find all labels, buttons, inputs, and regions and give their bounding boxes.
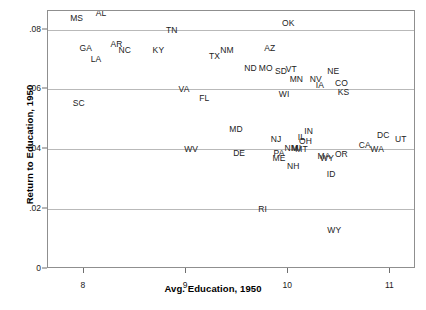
data-point-MS: MS bbox=[70, 14, 83, 23]
data-point-WY: WY bbox=[327, 225, 341, 234]
data-point-OK: OK bbox=[282, 19, 294, 28]
data-point-OR: OR bbox=[335, 150, 348, 159]
data-point-KS: KS bbox=[338, 87, 350, 96]
data-point-VA: VA bbox=[178, 85, 189, 94]
data-point-AL: AL bbox=[96, 10, 107, 18]
data-point-NH: NH bbox=[287, 161, 299, 170]
gridline-y-.06 bbox=[48, 89, 414, 90]
gridline-y-.08 bbox=[48, 30, 414, 31]
data-point-MN: MN bbox=[290, 75, 303, 84]
data-point-NJ: NJ bbox=[271, 135, 282, 144]
data-point-TX: TX bbox=[209, 52, 220, 61]
x-tick-mark-8 bbox=[83, 268, 84, 273]
data-point-WV: WV bbox=[184, 145, 198, 154]
data-point-MO: MO bbox=[259, 63, 273, 72]
x-tick-mark-9 bbox=[185, 268, 186, 273]
data-point-CA: CA bbox=[359, 141, 371, 150]
gridline-y-.02 bbox=[48, 209, 414, 210]
data-point-WY: WY bbox=[320, 153, 334, 162]
data-point-ID: ID bbox=[327, 170, 336, 179]
data-point-IN: IN bbox=[304, 126, 313, 135]
data-point-WI: WI bbox=[279, 89, 290, 98]
data-point-KY: KY bbox=[153, 46, 165, 55]
data-point-IA: IA bbox=[316, 81, 324, 90]
data-point-NM: NM bbox=[220, 46, 233, 55]
data-point-MD: MD bbox=[229, 124, 242, 133]
data-point-NM: NM bbox=[285, 144, 298, 153]
data-point-WA: WA bbox=[370, 145, 384, 154]
data-point-DC: DC bbox=[377, 130, 389, 139]
scatter-plot-figure: 0.02.04.06.08 Return to Education, 1950 … bbox=[0, 0, 426, 310]
data-point-AZ: AZ bbox=[264, 44, 275, 53]
x-tick-mark-10 bbox=[287, 268, 288, 273]
data-point-GA: GA bbox=[80, 44, 92, 53]
data-point-UT: UT bbox=[395, 135, 407, 144]
data-point-ME: ME bbox=[273, 153, 286, 162]
plot-area: MSALTNOKARGANCKYNMAZTXLANDMOSDVTNEMNNVVA… bbox=[47, 10, 415, 268]
x-axis-title: Avg. Education, 1950 bbox=[0, 283, 426, 294]
data-point-ND: ND bbox=[244, 63, 256, 72]
x-tick-mark-11 bbox=[389, 268, 390, 273]
data-point-RI: RI bbox=[258, 205, 267, 214]
data-point-LA: LA bbox=[91, 54, 102, 63]
data-point-NE: NE bbox=[327, 66, 339, 75]
data-point-DE: DE bbox=[233, 149, 245, 158]
data-point-NC: NC bbox=[118, 46, 130, 55]
y-axis-title: Return to Education, 1950 bbox=[24, 55, 35, 235]
data-point-VT: VT bbox=[286, 64, 297, 73]
data-point-FL: FL bbox=[199, 93, 209, 102]
y-tick-label-.08: .08 bbox=[29, 24, 41, 34]
data-point-TN: TN bbox=[166, 25, 178, 34]
data-point-SC: SC bbox=[73, 98, 85, 107]
